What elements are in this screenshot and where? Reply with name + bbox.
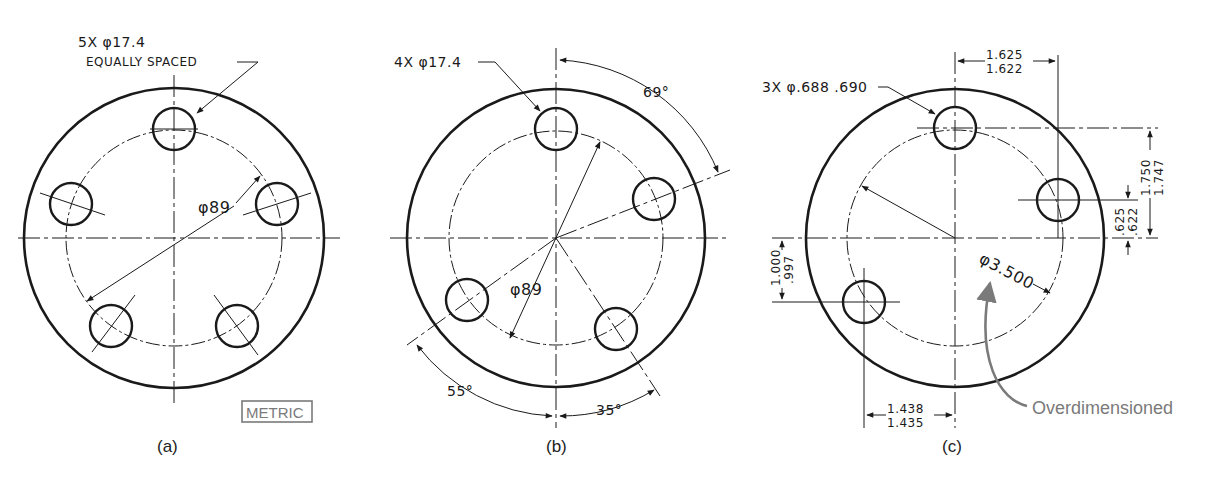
figure-b: 4X φ17.4 φ89 69° 55° 35° (b) bbox=[390, 48, 730, 456]
right-small-upper: .625 bbox=[1113, 207, 1127, 236]
hole-callout-line1: 5X φ17.4 bbox=[78, 34, 145, 50]
right-dim-lower: 1.747 bbox=[1152, 159, 1166, 196]
overdimensioned-arrow bbox=[985, 283, 1027, 406]
angle-55-label: 55° bbox=[447, 383, 473, 399]
bolt-circle-label: φ89 bbox=[198, 198, 230, 217]
bottom-dim-upper: 1.438 bbox=[887, 402, 924, 416]
holes bbox=[772, 55, 1158, 428]
diameter-dim-line bbox=[510, 142, 600, 338]
top-dim-lower: 1.622 bbox=[986, 62, 1023, 76]
angle-arc-69 bbox=[560, 60, 718, 172]
bolt-circle-label: φ3.500 bbox=[976, 249, 1037, 294]
holes bbox=[40, 108, 311, 355]
bottom-dim-lower: 1.435 bbox=[887, 416, 924, 430]
metric-label: METRIC bbox=[246, 404, 304, 421]
angle-69-label: 69° bbox=[643, 84, 669, 100]
right-small-lower: .622 bbox=[1126, 207, 1140, 236]
figure-c: 3X φ.688 .690 1.625 1.622 1.750 1.747 .6… bbox=[762, 48, 1173, 456]
caption-a: (a) bbox=[157, 437, 178, 456]
angle-35-label: 35° bbox=[596, 402, 622, 418]
angle-arc-55 bbox=[417, 345, 552, 416]
hole-callout: 3X φ.688 .690 bbox=[762, 79, 867, 95]
left-dim-lower: .997 bbox=[782, 255, 796, 284]
hole-callout-line2: EQUALLY SPACED bbox=[86, 55, 197, 69]
right-dim-upper: 1.750 bbox=[1139, 159, 1153, 196]
drawing-canvas: 5X φ17.4 EQUALLY SPACED φ89 METRIC (a) 4… bbox=[0, 0, 1212, 487]
callout-leader bbox=[478, 62, 540, 111]
diameter-dim-line bbox=[862, 186, 955, 238]
diameter-dim-line bbox=[87, 206, 234, 301]
caption-c: (c) bbox=[942, 437, 962, 456]
figure-a: 5X φ17.4 EQUALLY SPACED φ89 METRIC (a) bbox=[18, 34, 340, 456]
left-dim-upper: 1.000 bbox=[769, 249, 783, 286]
caption-b: (b) bbox=[546, 437, 567, 456]
callout-leader bbox=[197, 62, 258, 113]
top-dim-upper: 1.625 bbox=[986, 48, 1023, 62]
bolt-circle-label: φ89 bbox=[510, 280, 542, 299]
overdimensioned-label: Overdimensioned bbox=[1032, 398, 1173, 418]
hole-callout: 4X φ17.4 bbox=[394, 54, 461, 70]
